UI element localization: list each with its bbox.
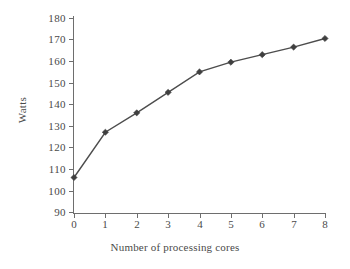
data-point <box>291 44 297 50</box>
chart-figure: 180 170 160 150 140 130 120 110 100 90 0… <box>0 0 350 269</box>
plot-area: 180 170 160 150 140 130 120 110 100 90 0… <box>0 0 350 269</box>
data-point <box>322 35 328 41</box>
series-markers <box>71 35 328 180</box>
data-series-layer <box>0 0 350 269</box>
data-point <box>259 52 265 58</box>
data-point <box>228 59 234 65</box>
x-axis-title: Number of processing cores <box>0 241 350 253</box>
y-axis-title: Watts <box>16 80 28 140</box>
series-line <box>74 38 325 177</box>
